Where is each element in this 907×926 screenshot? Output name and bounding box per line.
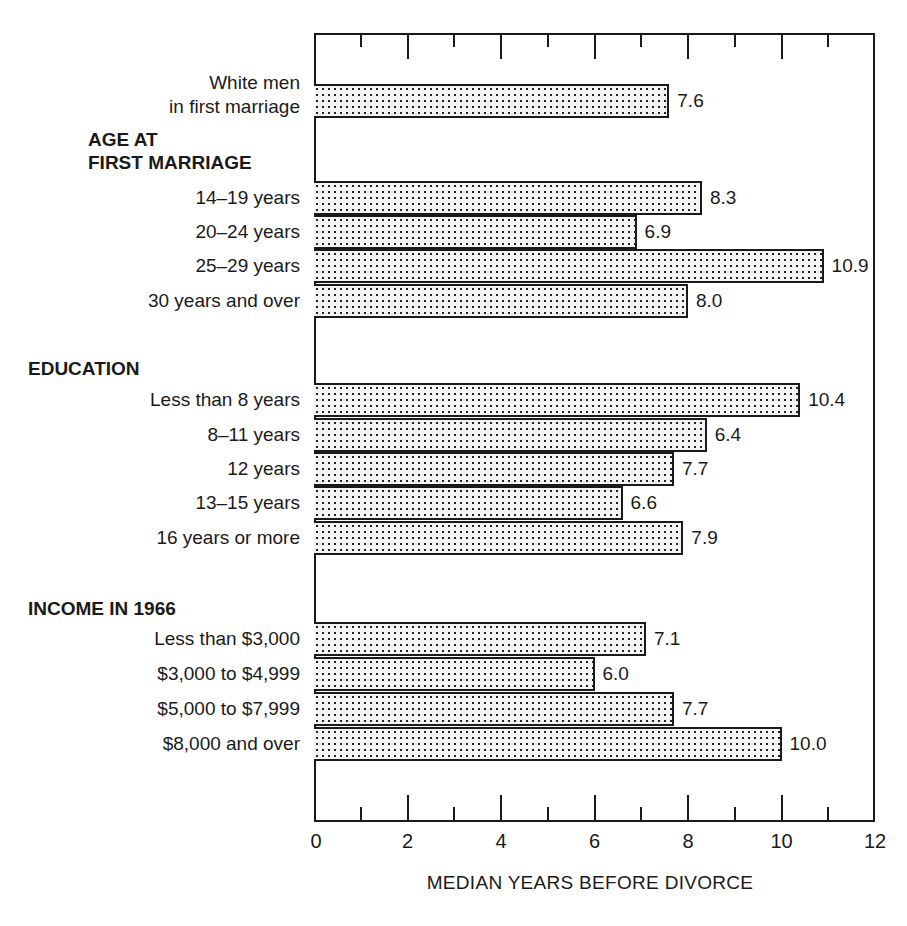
value-label: 6.0 [603, 663, 629, 685]
value-label: 7.9 [691, 527, 717, 549]
minor-tick-bottom [734, 807, 736, 821]
x-axis-label: MEDIAN YEARS BEFORE DIVORCE [427, 872, 754, 894]
bar-chart: White men in first marriage AGE AT FIRST… [0, 0, 907, 926]
bar [314, 84, 669, 118]
value-label: 7.1 [654, 628, 680, 650]
row-label: Less than $3,000 [154, 628, 300, 650]
group-label-income: INCOME IN 1966 [28, 597, 176, 620]
minor-tick-bottom [453, 807, 455, 821]
x-tick-label: 10 [770, 830, 792, 853]
major-tick-bottom [594, 795, 596, 821]
major-tick-bottom [687, 795, 689, 821]
minor-tick-top [453, 33, 455, 47]
minor-tick-top [827, 33, 829, 47]
row-label: 12 years [227, 458, 300, 480]
x-tick-label: 2 [402, 830, 413, 853]
row-label: 30 years and over [148, 290, 300, 312]
x-tick-label: 4 [495, 830, 506, 853]
row-label: 25–29 years [195, 255, 300, 277]
minor-tick-top [640, 33, 642, 47]
bar [314, 622, 646, 656]
bar [314, 657, 595, 691]
value-label: 10.4 [808, 389, 845, 411]
value-label: 7.7 [682, 458, 708, 480]
row-label: 20–24 years [195, 221, 300, 243]
major-tick-top [781, 33, 783, 59]
major-tick-top [500, 33, 502, 59]
minor-tick-bottom [547, 807, 549, 821]
bar [314, 418, 707, 452]
bar [314, 486, 623, 520]
value-label: 10.0 [790, 733, 827, 755]
row-label: 16 years or more [156, 527, 300, 549]
major-tick-bottom [781, 795, 783, 821]
bar [314, 215, 637, 249]
value-label: 6.4 [715, 424, 741, 446]
row-label: $5,000 to $7,999 [157, 698, 300, 720]
value-label: 7.7 [682, 698, 708, 720]
minor-tick-bottom [827, 807, 829, 821]
bar [314, 249, 824, 283]
bar [314, 383, 800, 417]
minor-tick-top [360, 33, 362, 47]
value-label: 6.9 [645, 221, 671, 243]
value-label: 7.6 [677, 90, 703, 112]
major-tick-top [594, 33, 596, 59]
row-label: $3,000 to $4,999 [157, 663, 300, 685]
row-label: 8–11 years [207, 424, 300, 446]
row-label-white-men-line1: White men [209, 72, 300, 94]
row-label: 14–19 years [195, 187, 300, 209]
bar [314, 452, 674, 486]
x-tick-label: 12 [864, 830, 886, 853]
bar [314, 284, 688, 318]
bar [314, 727, 782, 761]
bar [314, 521, 683, 555]
major-tick-bottom [407, 795, 409, 821]
bar [314, 181, 702, 215]
minor-tick-bottom [640, 807, 642, 821]
minor-tick-bottom [360, 807, 362, 821]
x-tick-label: 6 [589, 830, 600, 853]
row-label: Less than 8 years [150, 389, 300, 411]
major-tick-top [687, 33, 689, 59]
major-tick-top [407, 33, 409, 59]
bar [314, 692, 674, 726]
value-label: 10.9 [832, 255, 869, 277]
value-label: 8.0 [696, 290, 722, 312]
group-label-age: AGE AT FIRST MARRIAGE [88, 128, 252, 174]
row-label: $8,000 and over [163, 733, 300, 755]
x-tick-label: 8 [682, 830, 693, 853]
minor-tick-top [734, 33, 736, 47]
row-label-white-men-line2: in first marriage [169, 96, 300, 118]
major-tick-bottom [500, 795, 502, 821]
value-label: 8.3 [710, 187, 736, 209]
group-label-education: EDUCATION [28, 357, 140, 380]
x-tick-label: 0 [310, 830, 321, 853]
minor-tick-top [547, 33, 549, 47]
value-label: 6.6 [631, 492, 657, 514]
row-label: 13–15 years [195, 492, 300, 514]
